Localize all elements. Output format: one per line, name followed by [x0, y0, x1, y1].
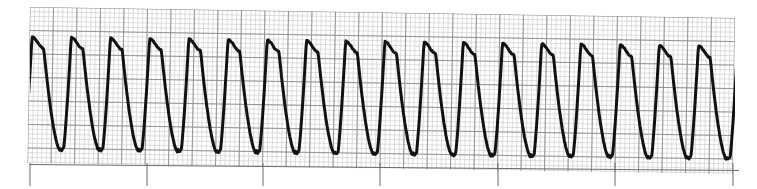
ecg-chart-svg — [0, 0, 757, 189]
ecg-rhythm-strip — [0, 0, 757, 189]
